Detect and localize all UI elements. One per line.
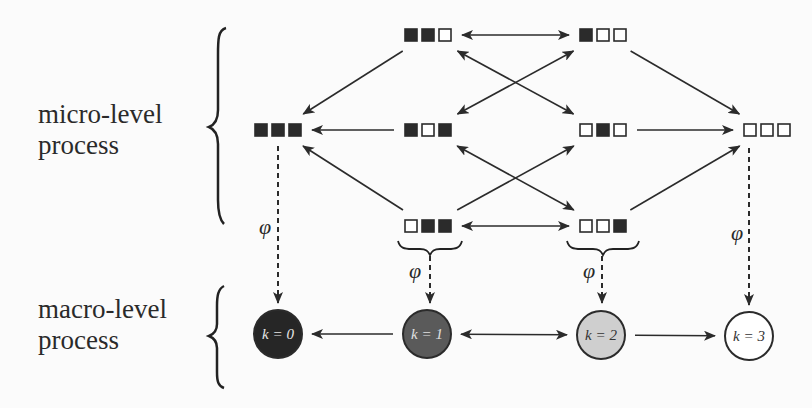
macro-state-k0: k = 0 <box>254 310 302 358</box>
micro-state-010 <box>580 124 626 136</box>
filled-square-icon <box>597 124 609 136</box>
filled-square-icon <box>614 220 626 232</box>
micro-brace-icon <box>209 28 226 224</box>
empty-square-icon <box>597 220 609 232</box>
transition-arrow-100-000 <box>631 51 740 114</box>
empty-square-icon <box>439 29 451 41</box>
macro-brace-icon <box>209 286 224 388</box>
filled-square-icon <box>422 29 434 41</box>
filled-square-icon <box>580 29 592 41</box>
empty-square-icon <box>597 29 609 41</box>
transition-arrow-110-111 <box>303 51 402 114</box>
empty-square-icon <box>580 220 592 232</box>
macro-state-k2: k = 2 <box>577 311 625 359</box>
macro-state-k3: k = 3 <box>725 312 773 360</box>
underbrace-001-icon <box>567 241 639 255</box>
phi-label-k0: φ <box>259 214 271 239</box>
filled-square-icon <box>272 124 284 136</box>
empty-square-icon <box>614 124 626 136</box>
empty-square-icon <box>744 124 756 136</box>
filled-square-icon <box>405 29 417 41</box>
macro-state-label: k = 3 <box>733 328 765 344</box>
macro-transition-arrow-k1-k2 <box>461 334 567 335</box>
micro-state-000 <box>744 124 790 136</box>
micro-state-011 <box>405 220 451 232</box>
empty-square-icon <box>405 220 417 232</box>
filled-square-icon <box>422 220 434 232</box>
empty-square-icon <box>778 124 790 136</box>
filled-square-icon <box>289 124 301 136</box>
diagram-canvas: φ φ φ φ k = 0k = 1k = 2k = 3 <box>0 0 812 408</box>
filled-square-icon <box>439 220 451 232</box>
macro-state-label: k = 1 <box>411 326 443 342</box>
macro-state-label: k = 0 <box>262 326 294 342</box>
transition-arrow-011-111 <box>303 146 403 210</box>
filled-square-icon <box>405 124 417 136</box>
micro-state-110 <box>405 29 451 41</box>
empty-square-icon <box>614 29 626 41</box>
underbrace-011-icon <box>398 241 462 255</box>
micro-transitions <box>303 35 740 226</box>
empty-square-icon <box>580 124 592 136</box>
phi-label-k2: φ <box>583 258 595 283</box>
transition-arrow-001-000 <box>630 146 739 210</box>
micro-state-100 <box>580 29 626 41</box>
filled-square-icon <box>255 124 267 136</box>
empty-square-icon <box>761 124 773 136</box>
empty-square-icon <box>422 124 434 136</box>
macro-transitions <box>312 334 715 336</box>
micro-state-111 <box>255 124 301 136</box>
micro-state-001 <box>580 220 626 232</box>
micro-state-101 <box>405 124 451 136</box>
macro-state-k1: k = 1 <box>403 310 451 358</box>
phi-label-k3: φ <box>731 220 743 245</box>
filled-square-icon <box>439 124 451 136</box>
macro-transition-arrow-k2-k3 <box>635 335 715 336</box>
phi-label-k1: φ <box>409 258 421 283</box>
macro-state-label: k = 2 <box>585 327 617 343</box>
